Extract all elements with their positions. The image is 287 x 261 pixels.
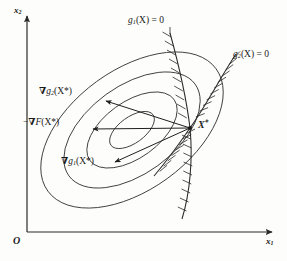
optimum-point-base: X [198, 119, 205, 130]
x-axis-label: x1 [266, 237, 273, 247]
gradient-g2-label: ∇g2(X*) [39, 87, 72, 97]
y-axis-label: x2 [14, 6, 21, 16]
constraint-g2-label-arg: (X) = 0 [241, 49, 269, 59]
optimum-point-label: X* [198, 120, 208, 130]
objective-contour-group [13, 20, 252, 239]
neg-gradient-f-label: −∇F(X*) [23, 118, 59, 128]
constraint-g2-group [154, 52, 240, 177]
x-axis-label-sub: 1 [271, 240, 274, 246]
neg-gradient-f-operator: ∇ [28, 117, 35, 127]
contour-ellipse-outer [13, 20, 252, 239]
constraint-g2-label: g2(X) = 0 [233, 50, 269, 60]
figure-canvas [0, 0, 287, 261]
neg-gradient-f-arrow [93, 128, 190, 129]
gradient-g1-arrow [115, 128, 190, 162]
constraint-g1-label: g1(X) = 0 [128, 16, 164, 26]
contour-ellipse-third [43, 49, 221, 212]
kkt-optimization-figure: x2 x1 O g1(X) = 0 g2(X) = 0 ∇g2(X*) −∇F(… [0, 0, 287, 261]
constraint-g1-curve [170, 33, 191, 219]
constraint-g1-group [163, 32, 193, 219]
origin-label: O [13, 236, 20, 246]
contour-ellipse-inner [103, 104, 160, 156]
gradient-g2-arg: (X*) [54, 86, 72, 96]
gradient-g1-label: ∇g1(X*) [61, 157, 94, 167]
optimum-point-sup: * [205, 119, 209, 127]
constraint-g1-hatching [163, 32, 193, 211]
constraint-g1-label-arg: (X) = 0 [136, 15, 164, 25]
neg-gradient-f-arg: (X*) [41, 117, 59, 127]
y-axis-label-sub: 2 [19, 9, 22, 15]
gradient-g1-arg: (X*) [76, 156, 94, 166]
optimum-point-marker [188, 126, 192, 130]
contour-ellipse-second [73, 77, 190, 183]
